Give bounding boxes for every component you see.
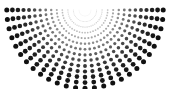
dot-marker [15, 33, 20, 38]
dot-marker [80, 13, 81, 14]
dot-marker [61, 41, 64, 44]
dot-marker [69, 26, 71, 28]
dot-marker [36, 26, 40, 30]
dot-marker [55, 50, 59, 54]
dot-marker [65, 78, 70, 83]
dot-marker [92, 42, 94, 44]
dot-marker [68, 50, 71, 53]
dot-marker [56, 9, 58, 11]
dot-marker [113, 35, 116, 38]
dot-marker [65, 37, 67, 39]
dot-marker [31, 66, 36, 71]
dot-marker [82, 21, 83, 22]
dot-marker [133, 52, 138, 57]
dot-marker [103, 37, 105, 39]
dot-marker [137, 56, 142, 61]
dot-marker [48, 58, 52, 62]
dot-marker [88, 26, 89, 27]
dot-marker [90, 11, 91, 12]
dot-marker [133, 43, 137, 47]
dot-marker [117, 13, 119, 15]
dot-marker [34, 20, 38, 24]
dot-marker [4, 8, 9, 13]
dot-marker [65, 43, 68, 46]
dot-marker [96, 40, 98, 42]
dot-marker [160, 17, 165, 22]
dot-marker [76, 64, 80, 68]
dot-marker [89, 14, 90, 15]
dot-marker [83, 69, 87, 73]
dot-marker [141, 59, 146, 64]
dot-marker [61, 65, 65, 69]
dot-marker [87, 21, 88, 22]
dot-marker [118, 9, 120, 11]
dot-marker [112, 28, 114, 30]
dot-marker [140, 30, 144, 34]
dot-marker [127, 19, 130, 22]
dot-marker [138, 46, 143, 51]
dot-marker [68, 39, 70, 41]
dot-marker [67, 11, 68, 12]
dot-marker [145, 32, 150, 37]
dot-marker [37, 49, 41, 53]
dot-marker [73, 12, 74, 13]
dot-marker [156, 35, 161, 40]
dot-marker [21, 8, 25, 12]
dot-marker [65, 22, 67, 24]
dot-marker [80, 20, 81, 21]
dot-marker [61, 25, 63, 27]
dot-marker [39, 14, 42, 17]
dot-marker [144, 8, 148, 12]
dot-marker [41, 67, 46, 72]
dot-marker [84, 48, 87, 51]
dot-marker [86, 26, 87, 27]
dot-marker [70, 19, 71, 20]
dot-marker [107, 70, 112, 75]
dot-marker [7, 26, 12, 31]
dot-marker [121, 42, 125, 46]
dot-marker [39, 8, 42, 11]
dot-marker [144, 15, 148, 19]
dot-marker [61, 34, 63, 36]
dot-marker [54, 42, 57, 45]
dot-marker [81, 32, 83, 34]
dot-marker [63, 17, 65, 19]
dot-marker [74, 80, 79, 85]
dot-marker [42, 54, 46, 58]
dot-marker [54, 62, 58, 66]
dot-marker [77, 36, 79, 38]
dot-marker [110, 19, 112, 21]
dot-marker [109, 45, 112, 48]
dot-marker [152, 44, 157, 49]
dot-marker [85, 16, 86, 17]
dot-marker [90, 69, 94, 73]
dot-marker [83, 75, 88, 80]
dot-marker [20, 32, 25, 37]
figure-container [0, 0, 169, 89]
dot-marker [116, 72, 121, 77]
dot-marker [59, 70, 64, 75]
dot-marker [76, 17, 77, 18]
dot-marker [54, 35, 57, 38]
dot-marker [108, 75, 113, 80]
dot-marker [73, 52, 76, 55]
dot-marker [119, 77, 124, 82]
dot-marker [64, 20, 66, 22]
dot-marker [137, 36, 141, 40]
dot-marker [84, 16, 85, 17]
dot-marker [74, 15, 75, 16]
dot-marker [116, 31, 119, 34]
dot-marker [72, 40, 74, 42]
dot-marker [125, 24, 128, 27]
dot-marker [98, 68, 102, 72]
dot-marker [77, 18, 78, 19]
dot-marker [128, 32, 132, 36]
dot-marker [96, 12, 97, 13]
dot-marker [64, 83, 69, 88]
dot-marker [101, 83, 106, 88]
dot-marker [90, 13, 91, 14]
dot-marker [68, 68, 72, 72]
dot-marker [90, 31, 92, 33]
dot-marker [125, 37, 129, 41]
dot-marker [83, 15, 84, 16]
